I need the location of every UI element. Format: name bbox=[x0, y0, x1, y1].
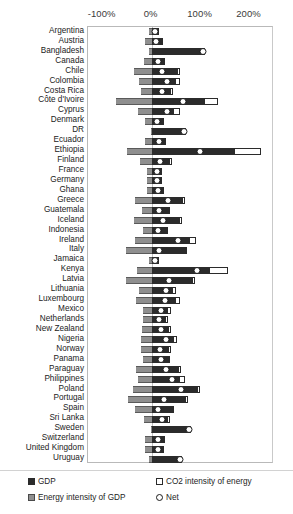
chart-bar-row[interactable] bbox=[88, 365, 272, 374]
chart-bar-row[interactable] bbox=[88, 167, 272, 176]
chart-bar-row[interactable] bbox=[88, 67, 272, 76]
energy-intensity-segment bbox=[142, 326, 151, 333]
net-marker bbox=[164, 197, 171, 204]
category-label: Portugal bbox=[54, 394, 85, 403]
chart-bar-row[interactable] bbox=[88, 117, 272, 126]
chart-bar-row[interactable] bbox=[88, 147, 272, 156]
energy-intensity-segment bbox=[136, 366, 152, 373]
gdp-segment bbox=[152, 426, 189, 433]
category-label: Italy bbox=[69, 245, 84, 254]
co2-intensity-segment bbox=[162, 446, 164, 453]
net-marker bbox=[193, 267, 200, 274]
chart-bar-row[interactable] bbox=[88, 57, 272, 66]
legend-row-1: GDP CO2 intensity of energy bbox=[28, 474, 293, 489]
chart-bar-row[interactable] bbox=[88, 157, 272, 166]
chart-bar-row[interactable] bbox=[88, 286, 272, 295]
chart-bar-row[interactable] bbox=[88, 266, 272, 275]
energy-intensity-segment bbox=[138, 376, 152, 383]
net-marker bbox=[154, 446, 161, 453]
plot-area bbox=[87, 26, 273, 463]
category-label: Iceland bbox=[58, 215, 84, 224]
co2-intensity-segment bbox=[162, 118, 164, 125]
chart-bar-row[interactable] bbox=[88, 176, 272, 185]
chart-bar-row[interactable] bbox=[88, 236, 272, 245]
chart-bar-row[interactable] bbox=[88, 97, 272, 106]
energy-intensity-segment bbox=[135, 197, 152, 204]
chart-bar-row[interactable] bbox=[88, 216, 272, 225]
chart-bar-row[interactable] bbox=[88, 206, 272, 215]
gdp-segment bbox=[152, 386, 198, 393]
energy-intensity-segment bbox=[141, 88, 152, 95]
net-marker bbox=[156, 158, 163, 165]
chart-bar-row[interactable] bbox=[88, 127, 272, 136]
energy-intensity-segment bbox=[144, 58, 152, 65]
net-marker bbox=[196, 148, 203, 155]
net-marker bbox=[162, 336, 169, 343]
legend-label-gdp: GDP bbox=[38, 477, 56, 486]
co2-intensity-segment bbox=[166, 227, 168, 234]
legend-item-net[interactable]: Net bbox=[156, 493, 179, 502]
chart-bar-row[interactable] bbox=[88, 355, 272, 364]
energy-intensity-segment bbox=[143, 307, 152, 314]
energy-intensity-segment bbox=[138, 108, 151, 115]
chart-bar-row[interactable] bbox=[88, 47, 272, 56]
energy-intensity-segment bbox=[141, 346, 151, 353]
category-label: Ireland bbox=[59, 235, 84, 244]
chart-bar-row[interactable] bbox=[88, 425, 272, 434]
legend-item-energy-intensity[interactable]: Energy intensity of GDP bbox=[28, 493, 156, 502]
chart-bar-row[interactable] bbox=[88, 296, 272, 305]
energy-intensity-segment bbox=[126, 247, 152, 254]
legend-item-co2[interactable]: CO2 intensity of energy bbox=[156, 477, 252, 486]
chart-bar-row[interactable] bbox=[88, 455, 272, 464]
chart-bar-row[interactable] bbox=[88, 107, 272, 116]
chart-bar-row[interactable] bbox=[88, 87, 272, 96]
net-marker bbox=[175, 237, 182, 244]
legend-item-gdp[interactable]: GDP bbox=[28, 477, 156, 486]
net-marker bbox=[154, 118, 161, 125]
chart-bar-row[interactable] bbox=[88, 306, 272, 315]
chart-bar-row[interactable] bbox=[88, 335, 272, 344]
chart-bar-row[interactable] bbox=[88, 77, 272, 86]
chart-legend: GDP CO2 intensity of energy Energy inten… bbox=[0, 470, 293, 510]
chart-bar-row[interactable] bbox=[88, 395, 272, 404]
chart-bar-row[interactable] bbox=[88, 325, 272, 334]
chart-bar-row[interactable] bbox=[88, 345, 272, 354]
chart-bar-row[interactable] bbox=[88, 276, 272, 285]
energy-intensity-segment bbox=[139, 78, 151, 85]
chart-bar-row[interactable] bbox=[88, 435, 272, 444]
chart-bar-row[interactable] bbox=[88, 196, 272, 205]
energy-intensity-segment bbox=[145, 446, 152, 453]
legend-label-net: Net bbox=[166, 493, 179, 502]
chart-bar-row[interactable] bbox=[88, 37, 272, 46]
category-label: Nigeria bbox=[58, 335, 84, 344]
chart-bar-row[interactable] bbox=[88, 405, 272, 414]
chart-bar-row[interactable] bbox=[88, 226, 272, 235]
chart-bar-row[interactable] bbox=[88, 256, 272, 265]
net-marker bbox=[179, 98, 186, 105]
category-label: Chile bbox=[65, 66, 84, 75]
category-label: Panama bbox=[54, 354, 85, 363]
co2-intensity-segment bbox=[192, 277, 195, 284]
energy-intensity-segment bbox=[145, 118, 152, 125]
chart-bar-row[interactable] bbox=[88, 315, 272, 324]
co2-intensity-segment bbox=[173, 108, 180, 115]
chart-bar-row[interactable] bbox=[88, 385, 272, 394]
chart-bar-row[interactable] bbox=[88, 375, 272, 384]
chart-bar-row[interactable] bbox=[88, 415, 272, 424]
gdp-segment bbox=[152, 128, 184, 135]
category-label: Ghana bbox=[59, 186, 84, 195]
co2-intensity-segment bbox=[167, 307, 171, 314]
category-label: Spain bbox=[63, 404, 84, 413]
chart-bar-row[interactable] bbox=[88, 445, 272, 454]
net-marker bbox=[186, 426, 193, 433]
co2-intensity-segment bbox=[168, 346, 170, 353]
chart-bar-row[interactable] bbox=[88, 137, 272, 146]
category-label: Luxembourg bbox=[38, 295, 84, 304]
co2-intensity-segment bbox=[161, 38, 163, 45]
chart-bar-row[interactable] bbox=[88, 246, 272, 255]
chart-bar-row[interactable] bbox=[88, 186, 272, 195]
energy-intensity-segment bbox=[135, 237, 152, 244]
category-label: Costa Rica bbox=[44, 86, 84, 95]
chart-bar-row[interactable] bbox=[88, 27, 272, 36]
net-marker bbox=[161, 297, 168, 304]
